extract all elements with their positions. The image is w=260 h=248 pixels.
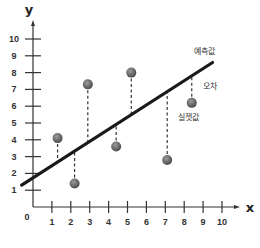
regression-line bbox=[22, 63, 213, 186]
y-tick-label: 1 bbox=[11, 185, 16, 195]
x-tick-label: 6 bbox=[144, 217, 149, 227]
data-point bbox=[187, 98, 197, 108]
y-tick-label: 3 bbox=[11, 152, 16, 162]
data-point bbox=[162, 155, 172, 165]
x-tick-label: 2 bbox=[68, 217, 73, 227]
y-tick-label: 4 bbox=[11, 135, 16, 145]
y-tick-label: 6 bbox=[11, 101, 16, 111]
x-ticks: 12345678910 bbox=[49, 201, 227, 227]
y-tick-label: 8 bbox=[11, 68, 16, 78]
y-ticks: 12345678910 bbox=[9, 34, 41, 195]
x-tick-label: 7 bbox=[163, 217, 168, 227]
x-axis-label: x bbox=[246, 200, 255, 215]
x-tick-label: 8 bbox=[182, 217, 187, 227]
y-tick-label: 10 bbox=[9, 34, 19, 44]
data-point bbox=[70, 178, 80, 188]
scatter-regression-chart: y x 0 12345678910 12345678910 예측값 오차 실젯값 bbox=[0, 0, 260, 248]
x-tick-label: 4 bbox=[106, 217, 111, 227]
y-tick-label: 2 bbox=[11, 168, 16, 178]
x-tick-label: 1 bbox=[49, 217, 54, 227]
y-tick-label: 5 bbox=[11, 118, 16, 128]
x-tick-label: 5 bbox=[125, 217, 130, 227]
actual-label: 실젯값 bbox=[178, 112, 200, 122]
y-tick-label: 9 bbox=[11, 51, 16, 61]
x-tick-label: 9 bbox=[201, 217, 206, 227]
x-tick-label: 10 bbox=[217, 217, 227, 227]
y-axis-label: y bbox=[25, 2, 34, 17]
data-point bbox=[111, 142, 121, 152]
predicted-label: 예측값 bbox=[194, 46, 216, 56]
data-point bbox=[53, 133, 63, 143]
error-label: 오차 bbox=[203, 82, 218, 91]
y-tick-label: 7 bbox=[11, 84, 16, 94]
data-point bbox=[126, 68, 136, 78]
data-point bbox=[83, 79, 93, 89]
origin-label: 0 bbox=[24, 212, 29, 222]
x-tick-label: 3 bbox=[87, 217, 92, 227]
